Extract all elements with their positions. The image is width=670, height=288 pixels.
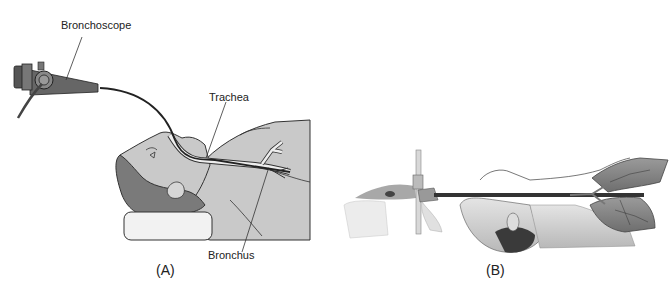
rigid-bronchoscopy-illustration [330,0,670,288]
flexible-bronchoscopy-illustration [0,0,330,288]
label-bronchus: Bronchus [208,249,254,261]
panel-a-flexible-bronchoscopy: Bronchoscope Trachea Bronchus (A) [0,0,330,288]
pillow [124,212,212,240]
panel-b-rigid-bronchoscopy: (B) [330,0,670,288]
label-trachea: Trachea [209,91,249,103]
caption-b: (B) [486,262,505,278]
label-bronchoscope: Bronchoscope [61,19,131,31]
caption-a: (A) [156,262,175,278]
operator-eye-area [355,185,416,200]
rigid-scope-tube [434,193,644,197]
bronchoscope-handle [14,62,98,118]
operator-mask [344,201,388,238]
